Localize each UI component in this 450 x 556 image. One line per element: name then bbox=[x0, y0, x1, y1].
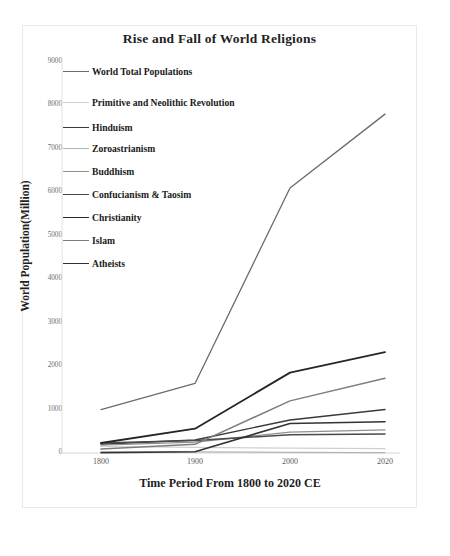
legend-item-confucianism-taosim[interactable]: Confucianism & Taosim bbox=[63, 189, 191, 201]
legend-item-primitive-and-neolithic-revolution[interactable]: Primitive and Neolithic Revolution bbox=[63, 97, 235, 109]
y-tick-4000: 4000 bbox=[28, 274, 62, 282]
legend-item-zoroastrianism[interactable]: Zoroastrianism bbox=[63, 143, 155, 155]
legend-swatch-icon bbox=[63, 194, 89, 195]
legend-swatch-icon bbox=[63, 217, 89, 218]
legend-item-christianity[interactable]: Christianity bbox=[63, 212, 142, 224]
legend-item-atheists[interactable]: Atheists bbox=[63, 258, 125, 270]
x-tick-2000: 2000 bbox=[270, 457, 310, 466]
legend-item-islam[interactable]: Islam bbox=[63, 235, 115, 247]
legend-label: Primitive and Neolithic Revolution bbox=[92, 97, 235, 109]
legend-item-hinduism[interactable]: Hinduism bbox=[63, 122, 133, 134]
legend-label: Zoroastrianism bbox=[92, 143, 155, 155]
y-tick-2000: 2000 bbox=[28, 361, 62, 369]
legend-item-buddhism[interactable]: Buddhism bbox=[63, 166, 134, 178]
legend-label: Christianity bbox=[92, 212, 142, 224]
legend-swatch-icon bbox=[63, 240, 89, 241]
legend-label: World Total Populations bbox=[92, 66, 192, 78]
legend-swatch-icon bbox=[63, 171, 89, 172]
legend-swatch-icon bbox=[63, 102, 89, 103]
legend-swatch-icon bbox=[63, 148, 89, 149]
y-tick-0: 0 bbox=[28, 448, 62, 456]
legend-label: Atheists bbox=[92, 258, 125, 270]
legend-item-world-total-populations[interactable]: World Total Populations bbox=[63, 66, 192, 78]
legend-swatch-icon bbox=[63, 263, 89, 264]
legend-label: Buddhism bbox=[92, 166, 134, 178]
legend-label: Hinduism bbox=[92, 122, 133, 134]
legend-swatch-icon bbox=[63, 127, 89, 128]
y-tick-8000: 8000 bbox=[28, 100, 62, 108]
legend-swatch-icon bbox=[63, 71, 89, 72]
x-tick-1800: 1800 bbox=[81, 457, 121, 466]
y-tick-3000: 3000 bbox=[28, 318, 62, 326]
y-tick-1000: 1000 bbox=[28, 405, 62, 413]
y-tick-6000: 6000 bbox=[28, 187, 62, 195]
x-axis-title: Time Period From 1800 to 2020 CE bbox=[60, 476, 400, 491]
y-tick-9000: 9000 bbox=[28, 57, 62, 65]
chart-title: Rise and Fall of World Religions bbox=[22, 31, 417, 47]
y-tick-7000: 7000 bbox=[28, 144, 62, 152]
legend-label: Islam bbox=[92, 235, 115, 247]
x-tick-1900: 1900 bbox=[175, 457, 215, 466]
x-tick-2020: 2020 bbox=[365, 457, 405, 466]
legend-label: Confucianism & Taosim bbox=[92, 189, 191, 201]
y-tick-5000: 5000 bbox=[28, 231, 62, 239]
